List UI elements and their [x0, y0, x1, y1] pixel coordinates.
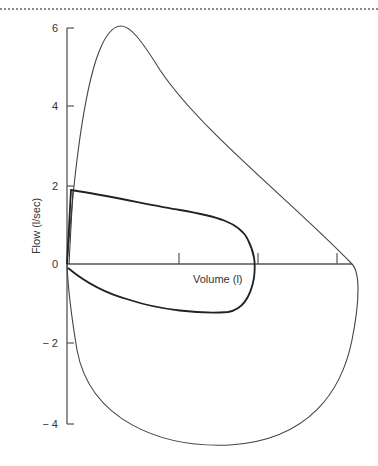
y-tick-label: 0	[52, 258, 58, 270]
x-axis-title: Volume (l)	[193, 273, 243, 285]
x-ticks	[179, 253, 337, 264]
tidal-loop-curve	[67, 190, 255, 313]
y-tick-label: − 4	[42, 418, 58, 430]
flow-volume-chart: 6 4 2 0 − 2 − 4 Flow (l/sec) Volume (l)	[0, 0, 378, 466]
y-tick-label: 4	[52, 100, 58, 112]
y-tick-label: 6	[52, 22, 58, 34]
y-tick-labels: 6 4 2 0 − 2 − 4	[42, 22, 58, 430]
y-tick-label: 2	[52, 180, 58, 192]
y-axis-title: Flow (l/sec)	[30, 198, 42, 254]
maximal-loop-curve	[67, 26, 358, 445]
y-tick-label: − 2	[42, 337, 58, 349]
